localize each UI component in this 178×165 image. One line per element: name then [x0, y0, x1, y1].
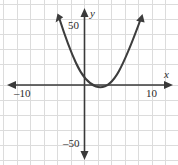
- x-axis-right-tick-label: 10: [146, 87, 158, 99]
- y-axis-top-tick-label: 50: [68, 19, 80, 31]
- x-axis-left-tick-label: –10: [13, 87, 31, 99]
- graph-canvas: –10 10 50 –50 x y: [0, 0, 178, 165]
- x-axis-name-label: x: [163, 68, 169, 80]
- y-axis-bottom-tick-label: –50: [62, 137, 80, 149]
- coordinate-graph-figure: –10 10 50 –50 x y: [0, 0, 178, 165]
- y-axis-name-label: y: [89, 7, 95, 19]
